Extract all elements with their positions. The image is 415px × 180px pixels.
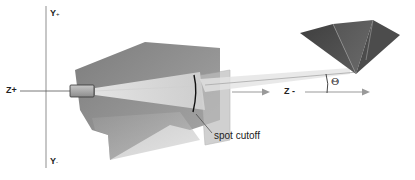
arrow-head-icon	[362, 89, 370, 96]
theta-label: Θ	[331, 76, 339, 87]
spotlight-diagram: Y+ Y- Z+ Z - spot cutoff Θ	[0, 0, 415, 180]
lamp-housing	[70, 85, 94, 97]
pyramid	[300, 20, 400, 74]
y-plus-label: Y+	[50, 8, 60, 18]
lower-plane-section	[92, 112, 200, 160]
y-minus-label: Y-	[50, 156, 58, 166]
diagram-graphics	[0, 0, 415, 180]
z-plus-label: Z+	[6, 85, 17, 95]
arrow-head-icon	[262, 89, 270, 96]
spot-cutoff-label: spot cutoff	[214, 130, 260, 141]
z-minus-label: Z -	[284, 86, 295, 96]
